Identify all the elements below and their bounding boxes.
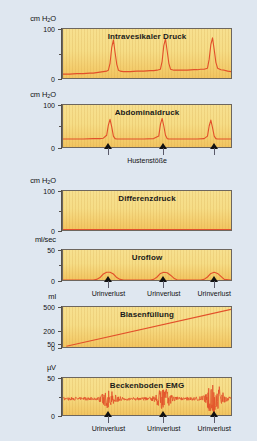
plot-area-intravesikaler-druck: Intravesikaler Druck [62, 28, 232, 79]
y-axis-unit-beckenboden-emg: µV [8, 363, 56, 372]
plot-title-blasenfullung: Blasenfüllung [63, 310, 231, 319]
annotation-label-uroflow-2: Urinverlust [197, 290, 230, 297]
plot-area-uroflow: Uroflow [62, 249, 232, 281]
y-tick-label-blasenfullung-50: 50 [23, 340, 55, 347]
plot-area-beckenboden-emg: Beckenboden EMG [62, 377, 232, 416]
plot-area-differenzdruck: Differenzdruck [62, 190, 232, 231]
plot-area-blasenfullung: Blasenfüllung [62, 306, 232, 348]
y-tick-label-differenzdruck-100: 100 [23, 187, 55, 194]
plot-title-differenzdruck: Differenzdruck [63, 194, 231, 203]
y-axis-unit-intravesikaler-druck: cm H2O [8, 14, 56, 23]
annotation-label-beckenboden-emg-0: Urinverlust [92, 425, 125, 432]
y-axis-unit-differenzdruck: cm H2O [8, 176, 56, 185]
y-tick-label-blasenfullung-500: 500 [23, 303, 55, 310]
plot-title-abdominaldruck: Abdominaldruck [63, 108, 231, 117]
y-axis-unit-abdominaldruck: cm H2O [8, 90, 56, 99]
y-tick-label-abdominaldruck-0: 0 [23, 144, 55, 151]
annotation-label-uroflow-0: Urinverlust [92, 290, 125, 297]
y-tick-label-abdominaldruck-100: 100 [23, 101, 55, 108]
y-tick-label-uroflow-0: 0 [23, 277, 55, 284]
annotation-label-beckenboden-emg-2: Urinverlust [197, 425, 230, 432]
annotation-label-uroflow-1: Urinverlust [147, 290, 180, 297]
y-axis-unit-uroflow: ml/sec [8, 235, 56, 244]
y-tick-label-blasenfullung-200: 200 [23, 328, 55, 335]
annotation-label-abdominaldruck-0: Hustenstöße [127, 157, 167, 164]
plot-title-uroflow: Uroflow [63, 253, 231, 262]
y-tick-label-intravesikaler-druck-100: 100 [23, 25, 55, 32]
y-tick-label-beckenboden-emg-0: 0 [23, 412, 55, 419]
plot-title-beckenboden-emg: Beckenboden EMG [63, 381, 231, 390]
y-axis-unit-blasenfullung: ml [8, 292, 56, 301]
annotation-label-beckenboden-emg-1: Urinverlust [147, 425, 180, 432]
plot-area-abdominaldruck: Abdominaldruck [62, 104, 232, 148]
y-tick-label-beckenboden-emg-50: 50 [23, 374, 55, 381]
y-tick-label-differenzdruck-0: 0 [23, 227, 55, 234]
y-tick-label-intravesikaler-druck-0: 0 [23, 75, 55, 82]
plot-title-intravesikaler-druck: Intravesikaler Druck [63, 32, 231, 41]
y-tick-label-uroflow-50: 50 [23, 246, 55, 253]
urodynamics-figure: cm H2O0100Intravesikaler Druckcm H2O0100… [0, 0, 257, 441]
